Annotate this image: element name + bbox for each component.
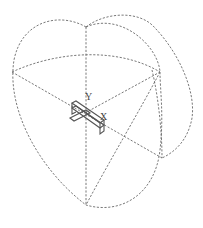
orbit-outline-right [86, 15, 193, 158]
3d-viewport[interactable]: Y X [0, 0, 203, 228]
model[interactable] [70, 101, 104, 134]
axis-label-x: X [100, 111, 108, 122]
axis-label-y: Y [85, 91, 92, 102]
orbit-wireframe[interactable]: Y X [0, 0, 203, 228]
